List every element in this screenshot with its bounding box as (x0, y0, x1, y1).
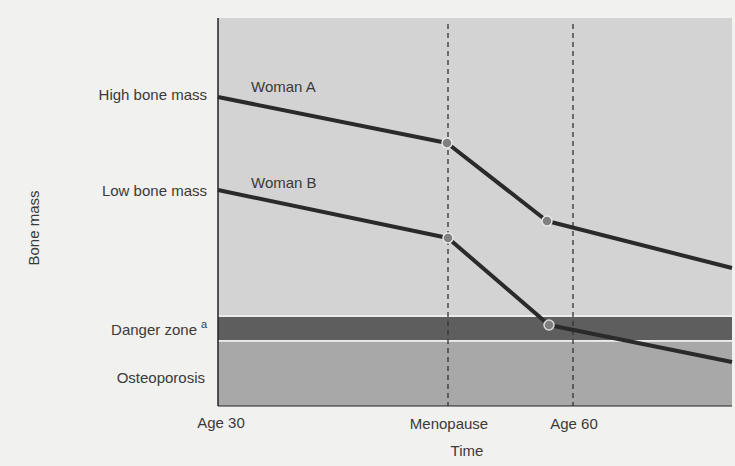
woman-a-menopause-marker (442, 138, 452, 148)
x-tick-age30: Age 30 (197, 414, 245, 431)
woman-b-menopause-marker (443, 233, 453, 243)
x-tick-menopause: Menopause (410, 415, 488, 432)
danger-zone-text: Danger zone (111, 321, 197, 338)
woman-b-age60-marker (544, 320, 554, 330)
danger-zone-label: Danger zone (111, 321, 197, 338)
low-bone-mass-label: Low bone mass (102, 182, 207, 199)
x-tick-age60: Age 60 (550, 415, 598, 432)
woman-b-label: Woman B (251, 174, 317, 191)
woman-a-label: Woman A (251, 78, 316, 95)
x-axis-title: Time (451, 442, 484, 459)
danger-zone-footnote: a (201, 318, 208, 330)
bone-mass-chart: Woman A Woman B High bone mass Low bone … (0, 0, 735, 466)
y-axis-title: Bone mass (25, 190, 42, 265)
osteoporosis-zone (218, 341, 732, 406)
high-bone-mass-label: High bone mass (99, 86, 207, 103)
osteoporosis-label: Osteoporosis (117, 369, 205, 386)
danger-zone (218, 317, 732, 340)
woman-a-age60-marker (542, 216, 552, 226)
